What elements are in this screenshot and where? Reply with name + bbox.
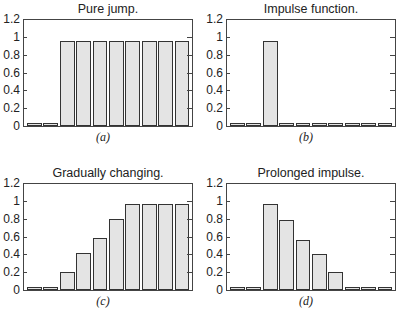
bar bbox=[246, 123, 261, 126]
bar bbox=[125, 204, 140, 290]
y-tick-label: 0.2 bbox=[201, 102, 223, 114]
y-tick-mark bbox=[390, 272, 395, 273]
bar bbox=[158, 204, 173, 290]
y-tick-mark bbox=[187, 272, 192, 273]
y-tick-label: 1 bbox=[0, 195, 20, 207]
bar bbox=[60, 272, 75, 290]
bar bbox=[279, 220, 294, 290]
y-tick-mark bbox=[227, 272, 230, 273]
bar bbox=[60, 41, 75, 126]
bar bbox=[109, 41, 124, 126]
bar bbox=[142, 204, 157, 290]
y-tick-label: 0.8 bbox=[201, 49, 223, 61]
chart-title: Gradually changing. bbox=[28, 166, 188, 180]
y-tick-mark bbox=[227, 108, 230, 109]
bar bbox=[158, 41, 173, 126]
bar bbox=[328, 272, 343, 290]
bar bbox=[378, 123, 393, 126]
bar bbox=[109, 219, 124, 290]
bar bbox=[361, 123, 376, 126]
y-tick-mark bbox=[390, 254, 395, 255]
chart-title: Prolonged impulse. bbox=[231, 166, 391, 180]
y-tick-mark bbox=[187, 73, 192, 74]
bar bbox=[125, 41, 140, 126]
chart-title: Impulse function. bbox=[231, 2, 391, 16]
bar bbox=[76, 253, 91, 290]
y-tick-label: 0.6 bbox=[201, 231, 223, 243]
bar bbox=[296, 123, 311, 126]
y-tick-mark bbox=[227, 254, 230, 255]
y-tick-mark bbox=[24, 90, 27, 91]
y-tick-label: 1 bbox=[201, 195, 223, 207]
y-tick-mark bbox=[390, 237, 395, 238]
y-tick-mark bbox=[24, 254, 27, 255]
y-tick-mark bbox=[227, 237, 230, 238]
y-tick-mark bbox=[24, 272, 27, 273]
y-tick-label: 0 bbox=[201, 120, 223, 132]
y-tick-label: 0.6 bbox=[201, 67, 223, 79]
y-tick-mark bbox=[24, 55, 27, 56]
bar bbox=[246, 287, 261, 290]
bar bbox=[175, 204, 190, 290]
y-tick-mark bbox=[390, 90, 395, 91]
y-tick-label: 0.8 bbox=[0, 213, 20, 225]
y-tick-label: 0.4 bbox=[201, 84, 223, 96]
y-tick-mark bbox=[227, 73, 230, 74]
y-tick-mark bbox=[24, 37, 27, 38]
y-tick-label: 0.8 bbox=[201, 213, 223, 225]
y-tick-mark bbox=[390, 108, 395, 109]
y-tick-mark bbox=[390, 37, 395, 38]
y-tick-label: 0 bbox=[201, 284, 223, 296]
bar bbox=[361, 287, 376, 290]
panel-sublabel: (b) bbox=[291, 130, 321, 145]
bar bbox=[378, 287, 393, 290]
y-tick-mark bbox=[390, 55, 395, 56]
y-tick-mark bbox=[24, 73, 27, 74]
bar bbox=[142, 41, 157, 126]
bar bbox=[312, 123, 327, 126]
y-tick-label: 0 bbox=[0, 120, 20, 132]
bar bbox=[345, 123, 360, 126]
y-tick-label: 0.4 bbox=[0, 84, 20, 96]
y-tick-label: 0.2 bbox=[0, 102, 20, 114]
bar bbox=[328, 123, 343, 126]
panel-sublabel: (c) bbox=[88, 294, 118, 309]
plot-area bbox=[226, 19, 396, 127]
y-tick-mark bbox=[187, 219, 192, 220]
chart-title: Pure jump. bbox=[28, 2, 188, 16]
y-tick-mark bbox=[390, 73, 395, 74]
y-tick-label: 0.4 bbox=[0, 248, 20, 260]
plot-area bbox=[23, 19, 193, 127]
bar bbox=[43, 287, 58, 290]
y-tick-mark bbox=[24, 108, 27, 109]
y-tick-mark bbox=[24, 219, 27, 220]
y-tick-label: 1.2 bbox=[201, 13, 223, 25]
bar bbox=[27, 287, 42, 290]
y-tick-mark bbox=[187, 37, 192, 38]
y-tick-label: 0.6 bbox=[0, 67, 20, 79]
bar bbox=[230, 123, 245, 126]
y-tick-mark bbox=[227, 55, 230, 56]
bar bbox=[230, 287, 245, 290]
bar bbox=[93, 238, 108, 290]
y-tick-mark bbox=[187, 108, 192, 109]
bar bbox=[27, 123, 42, 126]
bar bbox=[263, 41, 278, 126]
y-tick-mark bbox=[24, 237, 27, 238]
y-tick-mark bbox=[390, 201, 395, 202]
y-tick-label: 0.6 bbox=[0, 231, 20, 243]
y-tick-mark bbox=[390, 219, 395, 220]
y-tick-mark bbox=[187, 237, 192, 238]
bar bbox=[345, 287, 360, 290]
y-tick-mark bbox=[227, 219, 230, 220]
y-tick-label: 1.2 bbox=[0, 177, 20, 189]
y-tick-label: 0.4 bbox=[201, 248, 223, 260]
y-tick-mark bbox=[227, 37, 230, 38]
bar bbox=[93, 41, 108, 126]
y-tick-label: 0 bbox=[0, 284, 20, 296]
y-tick-mark bbox=[187, 90, 192, 91]
panel-sublabel: (a) bbox=[88, 130, 118, 145]
y-tick-mark bbox=[187, 55, 192, 56]
bar bbox=[263, 204, 278, 290]
y-tick-mark bbox=[227, 90, 230, 91]
